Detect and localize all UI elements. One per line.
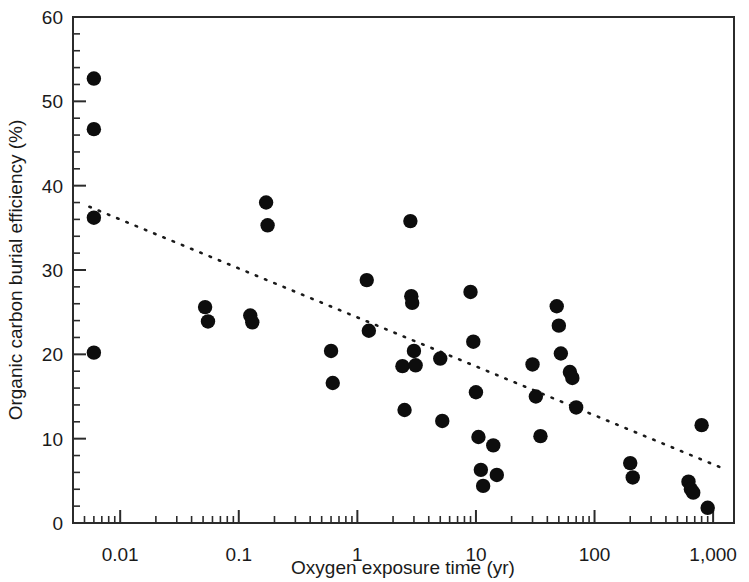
x-tick-label: 1,000 [689,544,737,565]
data-point [87,345,101,359]
data-point [552,318,566,332]
data-point [403,214,417,228]
data-point [700,501,714,515]
data-point [324,344,338,358]
data-point [686,485,700,499]
data-point [469,385,483,399]
data-point [360,273,374,287]
data-point [408,358,422,372]
data-point [260,218,274,232]
data-point [525,357,539,371]
y-tick-label: 30 [42,260,63,281]
data-point [565,371,579,385]
data-point [362,324,376,338]
data-point [405,296,419,310]
data-point [533,429,547,443]
data-point [259,195,273,209]
data-point [476,479,490,493]
x-tick-label: 0.01 [102,544,139,565]
data-point [529,389,543,403]
data-point [87,122,101,136]
data-point [626,470,640,484]
y-tick-label: 60 [42,7,63,28]
data-point [486,438,500,452]
data-point [463,285,477,299]
data-point [201,314,215,328]
data-point [569,400,583,414]
x-tick-label: 100 [579,544,611,565]
data-point [471,430,485,444]
chart-canvas: 0.010.11101001,000 0102030405060 Oxygen … [0,0,749,582]
y-axis-title: Organic carbon burial efficiency (%) [5,120,26,421]
data-point [466,334,480,348]
data-point [407,344,421,358]
data-point [490,468,504,482]
data-point [474,463,488,477]
y-tick-label: 50 [42,91,63,112]
x-tick-label: 0.1 [226,544,252,565]
data-point [435,414,449,428]
data-point [395,359,409,373]
data-point [87,71,101,85]
data-point [245,315,259,329]
data-point [554,346,568,360]
data-point [433,351,447,365]
data-point [87,211,101,225]
x-axis-title: Oxygen exposure time (yr) [291,557,515,578]
data-point [623,456,637,470]
data-point [397,403,411,417]
y-tick-label: 0 [52,513,63,534]
data-point [550,299,564,313]
y-tick-label: 10 [42,429,63,450]
data-point [694,418,708,432]
scatter-chart-figure: 0.010.11101001,000 0102030405060 Oxygen … [0,0,749,582]
y-tick-label: 20 [42,344,63,365]
data-point [326,376,340,390]
data-point [198,300,212,314]
chart-background [0,0,749,582]
y-tick-label: 40 [42,176,63,197]
